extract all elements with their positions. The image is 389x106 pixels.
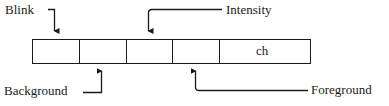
intensity-arrow-icon <box>149 10 223 32</box>
register-box <box>33 40 311 64</box>
intensity-label: Intensity <box>226 3 272 17</box>
blink-label: Blink <box>5 3 34 17</box>
box-outline <box>33 40 311 64</box>
blink-arrow-icon <box>48 10 55 32</box>
foreground-arrow-icon <box>196 71 309 91</box>
attribute-byte-diagram: Blink Intensity Background Foreground ch <box>0 0 389 106</box>
cell-ch-label: ch <box>256 44 268 58</box>
foreground-label: Foreground <box>311 83 372 97</box>
background-label: Background <box>4 84 68 98</box>
background-arrow-icon <box>83 71 102 93</box>
